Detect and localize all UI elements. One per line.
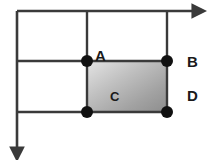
shaded-region: [87, 61, 167, 112]
vertex-dot-top-left: [81, 55, 93, 67]
vertex-dot-bottom-left: [81, 106, 93, 118]
diagram-canvas: A B C D: [0, 0, 210, 160]
label-d: D: [187, 87, 198, 104]
label-b: B: [187, 53, 198, 70]
vertex-dot-top-right: [161, 55, 173, 67]
label-c: C: [110, 89, 120, 104]
vertex-dot-bottom-right: [161, 106, 173, 118]
geometry-diagram: A B C D: [0, 0, 210, 160]
label-a: A: [95, 47, 106, 64]
